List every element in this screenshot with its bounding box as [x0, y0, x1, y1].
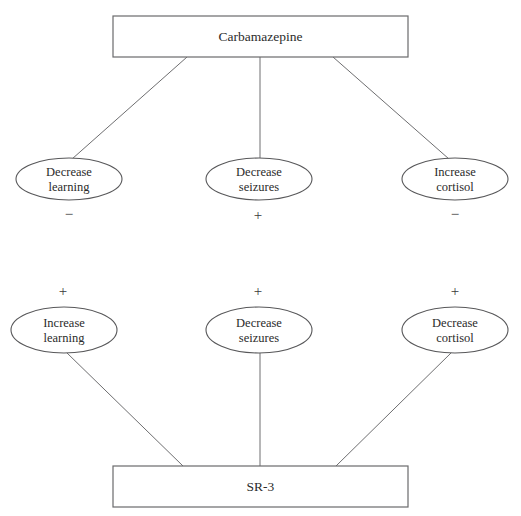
decrease-seizures-bottom-label-line2: seizures — [239, 331, 279, 345]
node-increase-cortisol[interactable]: Increase cortisol — [402, 158, 508, 200]
node-decrease-seizures-top[interactable]: Decrease seizures — [206, 158, 312, 200]
node-carbamazepine[interactable]: Carbamazepine — [113, 16, 408, 57]
decrease-cortisol-label-line2: cortisol — [436, 331, 474, 345]
sign-plus-decrease-seizures-bottom: + — [254, 283, 262, 299]
node-decrease-seizures-bottom[interactable]: Decrease seizures — [206, 307, 312, 353]
decrease-learning-label-line2: learning — [49, 180, 91, 194]
sign-group-top: − + − — [65, 206, 459, 223]
increase-learning-label-line2: learning — [44, 331, 86, 345]
edge-group — [66, 57, 452, 466]
sign-minus-increase-cortisol: − — [451, 206, 459, 222]
sign-plus-decrease-cortisol: + — [451, 283, 459, 299]
decrease-seizures-top-label-line2: seizures — [239, 180, 279, 194]
edge-carbamazepine-to-decrease-learning — [72, 57, 187, 159]
node-sr3[interactable]: SR-3 — [113, 466, 408, 507]
node-increase-learning[interactable]: Increase learning — [11, 307, 117, 353]
sign-group-bottom: + + + — [59, 283, 459, 299]
decrease-cortisol-label-line1: Decrease — [432, 316, 478, 330]
edge-increase-learning-to-sr3 — [66, 352, 183, 466]
increase-cortisol-label-line2: cortisol — [436, 180, 474, 194]
edge-carbamazepine-to-increase-cortisol — [333, 57, 449, 159]
decrease-seizures-top-label-line1: Decrease — [236, 165, 282, 179]
increase-cortisol-label-line1: Increase — [434, 165, 476, 179]
carbamazepine-label: Carbamazepine — [219, 29, 303, 44]
sr3-label: SR-3 — [247, 479, 275, 494]
increase-learning-label-line1: Increase — [43, 316, 85, 330]
edge-decrease-cortisol-to-sr3 — [336, 352, 452, 466]
node-decrease-learning[interactable]: Decrease learning — [16, 158, 122, 200]
diagram-root: Carbamazepine Decrease learning Decrease… — [0, 0, 521, 516]
decrease-seizures-bottom-label-line1: Decrease — [236, 316, 282, 330]
sign-minus-decrease-learning: − — [65, 206, 73, 222]
sign-plus-decrease-seizures-top: + — [254, 207, 262, 223]
node-decrease-cortisol[interactable]: Decrease cortisol — [402, 307, 508, 353]
sign-plus-increase-learning: + — [59, 283, 67, 299]
decrease-learning-label-line1: Decrease — [46, 165, 92, 179]
diagram-canvas: Carbamazepine Decrease learning Decrease… — [0, 0, 521, 516]
